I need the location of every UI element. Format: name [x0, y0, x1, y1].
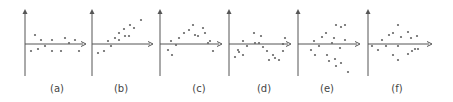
- data-point: [167, 49, 169, 51]
- panel-label: (c): [192, 83, 205, 94]
- scatter-panel-f: [366, 9, 433, 76]
- scatter-panel-d: [227, 9, 292, 76]
- data-point: [397, 59, 399, 61]
- data-point: [272, 54, 274, 56]
- data-point: [60, 50, 62, 52]
- panel-label: (a): [50, 83, 64, 94]
- y-axis-arrow-icon: [23, 9, 28, 14]
- data-point: [114, 37, 116, 39]
- data-point: [314, 54, 316, 56]
- data-point: [188, 29, 190, 31]
- panel-label: (e): [320, 83, 334, 94]
- data-point: [344, 24, 346, 26]
- data-point: [246, 45, 248, 47]
- y-axis-arrow-icon: [296, 9, 301, 14]
- data-point: [381, 39, 383, 41]
- data-point: [392, 54, 394, 56]
- data-point: [194, 34, 196, 36]
- data-point: [274, 57, 276, 59]
- data-point: [97, 52, 99, 54]
- data-point: [321, 36, 323, 38]
- data-point: [74, 39, 76, 41]
- data-point: [340, 62, 342, 64]
- data-point: [128, 35, 130, 37]
- data-point: [392, 32, 394, 34]
- scatter-plots-canvas: [0, 0, 453, 102]
- data-point: [237, 49, 239, 51]
- data-point: [282, 50, 284, 52]
- data-point: [34, 34, 36, 36]
- data-point: [44, 45, 46, 47]
- y-axis-arrow-icon: [90, 9, 95, 14]
- data-point: [30, 50, 32, 52]
- data-point: [313, 40, 315, 42]
- data-point: [129, 24, 131, 26]
- data-point: [64, 37, 66, 39]
- data-point: [400, 36, 402, 38]
- data-point: [254, 42, 256, 44]
- data-point: [397, 24, 399, 26]
- data-point: [133, 27, 135, 29]
- data-point: [326, 54, 328, 56]
- data-point: [371, 45, 373, 47]
- data-point: [325, 32, 327, 34]
- data-point: [78, 50, 80, 52]
- data-point: [278, 59, 280, 61]
- data-point: [310, 49, 312, 51]
- data-point: [212, 50, 214, 52]
- data-point: [242, 40, 244, 42]
- scatter-panel-b: [90, 9, 154, 76]
- data-point: [335, 24, 337, 26]
- data-point: [284, 37, 286, 39]
- data-point: [40, 39, 42, 41]
- data-point: [334, 58, 336, 60]
- y-axis-arrow-icon: [366, 9, 371, 14]
- data-point: [328, 60, 330, 62]
- data-point: [123, 28, 125, 30]
- data-point: [347, 71, 349, 73]
- data-point: [51, 39, 53, 41]
- data-point: [202, 27, 204, 29]
- data-point: [209, 40, 211, 42]
- data-point: [262, 46, 264, 48]
- data-point: [377, 49, 379, 51]
- data-point: [344, 39, 346, 41]
- data-point: [340, 26, 342, 28]
- panel-label: (f): [391, 83, 402, 94]
- scatter-panel-a: [23, 9, 87, 76]
- data-point: [197, 35, 199, 37]
- data-point: [260, 35, 262, 37]
- data-point: [204, 32, 206, 34]
- data-point: [414, 48, 416, 50]
- data-point: [331, 42, 333, 44]
- data-point: [107, 40, 109, 42]
- data-point: [258, 42, 260, 44]
- data-point: [417, 48, 419, 50]
- data-point: [333, 37, 335, 39]
- data-point: [253, 32, 255, 34]
- data-point: [51, 50, 53, 52]
- data-point: [140, 19, 142, 21]
- data-point: [192, 24, 194, 26]
- data-point: [268, 59, 270, 61]
- panel-label: (b): [114, 83, 128, 94]
- data-point: [411, 50, 413, 52]
- data-point: [110, 45, 112, 47]
- data-point: [397, 45, 399, 47]
- data-point: [118, 32, 120, 34]
- y-axis-arrow-icon: [227, 9, 232, 14]
- data-point: [207, 42, 209, 44]
- panel-label: (d): [257, 83, 271, 94]
- data-point: [171, 54, 173, 56]
- data-point: [178, 37, 180, 39]
- data-point: [318, 45, 320, 47]
- data-point: [170, 40, 172, 42]
- data-point: [282, 43, 284, 45]
- scatter-panel-c: [158, 9, 223, 76]
- data-point: [388, 34, 390, 36]
- data-point: [234, 56, 236, 58]
- data-point: [339, 47, 341, 49]
- data-point: [124, 35, 126, 37]
- data-point: [103, 50, 105, 52]
- data-point: [416, 35, 418, 37]
